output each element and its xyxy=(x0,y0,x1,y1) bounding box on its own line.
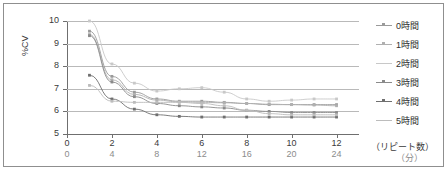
series-marker xyxy=(223,91,226,94)
x-tick-label-repeats: 4 xyxy=(144,138,170,148)
y-tick-label: 9 xyxy=(37,39,59,48)
legend-marker-icon xyxy=(376,97,392,107)
legend-label: 0時間 xyxy=(396,19,419,32)
series-marker xyxy=(268,116,271,119)
series-marker xyxy=(88,84,91,87)
legend-dot-icon xyxy=(382,80,385,83)
series-line xyxy=(89,36,336,113)
legend-label: 2時間 xyxy=(396,57,419,70)
x-axis-line xyxy=(67,134,359,135)
series-marker xyxy=(200,102,203,105)
series-marker xyxy=(133,101,136,104)
series-marker xyxy=(178,87,181,90)
series-marker xyxy=(290,99,293,102)
x-tick-label-repeats: 8 xyxy=(234,138,260,148)
series-marker xyxy=(268,103,271,106)
legend-label: 5時間 xyxy=(396,114,419,127)
x-tick-label-minutes: 8 xyxy=(144,149,170,159)
series-marker xyxy=(335,113,338,116)
y-axis-label: %CV xyxy=(20,35,30,56)
legend-marker-icon xyxy=(376,116,392,126)
series-marker xyxy=(335,104,338,107)
series-marker xyxy=(268,100,271,103)
series-line xyxy=(89,35,336,106)
series-line xyxy=(89,75,336,117)
series-marker xyxy=(111,75,114,78)
x-tick-label-repeats: 12 xyxy=(324,138,350,148)
series-marker xyxy=(155,113,158,116)
series-marker xyxy=(133,95,136,98)
legend-item[interactable]: 1時間 xyxy=(376,35,446,54)
x-tick-label-minutes: 4 xyxy=(99,149,125,159)
legend-label: 3時間 xyxy=(396,76,419,89)
series-marker xyxy=(335,98,338,101)
series-marker xyxy=(313,104,316,107)
legend-item[interactable]: 3時間 xyxy=(376,73,446,92)
series-marker xyxy=(223,116,226,119)
legend-dot-icon xyxy=(382,23,385,26)
legend-label: 4時間 xyxy=(396,95,419,108)
series-marker xyxy=(290,103,293,106)
chart-screenshot: %CV 1098765 00244861281610201224 （リピート数）… xyxy=(0,0,448,171)
series-marker xyxy=(88,20,91,23)
series-marker xyxy=(111,63,114,66)
x-tick-label-repeats: 0 xyxy=(54,138,80,148)
series-marker xyxy=(200,86,203,89)
legend-item[interactable]: 5時間 xyxy=(376,111,446,130)
series-marker xyxy=(88,74,91,77)
series-marker xyxy=(155,90,158,93)
series-marker xyxy=(111,100,114,103)
series-marker xyxy=(313,98,316,101)
series-marker xyxy=(178,115,181,118)
y-tick-label: 10 xyxy=(37,16,59,25)
series-marker xyxy=(200,105,203,108)
series-marker xyxy=(88,34,91,37)
y-tick-label: 8 xyxy=(37,61,59,70)
series-marker xyxy=(223,104,226,107)
series-marker xyxy=(133,82,136,85)
legend-item[interactable]: 4時間 xyxy=(376,92,446,111)
series-marker xyxy=(268,112,271,115)
series-marker xyxy=(245,98,248,101)
y-tick-label: 5 xyxy=(37,129,59,138)
series-marker xyxy=(245,116,248,119)
x-tick-label-repeats: 2 xyxy=(99,138,125,148)
series-marker xyxy=(178,104,181,107)
legend-line-icon xyxy=(376,63,392,64)
x-tick-label-repeats: 6 xyxy=(189,138,215,148)
x-tick-label-minutes: 16 xyxy=(234,149,260,159)
series-marker xyxy=(155,101,158,104)
series-marker xyxy=(88,30,91,33)
y-tick-label: 7 xyxy=(37,84,59,93)
legend-label: 1時間 xyxy=(396,38,419,51)
legend-line-icon xyxy=(376,120,392,121)
series-lines xyxy=(67,21,359,134)
plot-area: 1098765 00244861281610201224 xyxy=(67,21,359,134)
legend-dot-icon xyxy=(382,99,385,102)
legend-marker-icon xyxy=(376,78,392,88)
x-tick-label-minutes: 24 xyxy=(324,149,350,159)
chart-frame: %CV 1098765 00244861281610201224 （リピート数）… xyxy=(3,3,444,167)
series-marker xyxy=(313,113,316,116)
legend: 0時間1時間2時間3時間4時間5時間 xyxy=(376,16,446,130)
legend-dot-icon xyxy=(382,42,385,45)
y-tick-label: 6 xyxy=(37,106,59,115)
x-tick-label-minutes: 0 xyxy=(54,149,80,159)
x-tick-label-minutes: 12 xyxy=(189,149,215,159)
series-marker xyxy=(178,101,181,104)
series-marker xyxy=(245,102,248,105)
series-marker xyxy=(200,116,203,119)
legend-item[interactable]: 0時間 xyxy=(376,16,446,35)
x-tick-label-repeats: 10 xyxy=(279,138,305,148)
x-tick-label-minutes: 20 xyxy=(279,149,305,159)
legend-marker-icon xyxy=(376,59,392,69)
series-marker xyxy=(290,113,293,116)
series-marker xyxy=(133,108,136,111)
legend-marker-icon xyxy=(376,21,392,31)
series-marker xyxy=(245,109,248,112)
legend-marker-icon xyxy=(376,40,392,50)
series-marker xyxy=(223,101,226,104)
series-marker xyxy=(111,81,114,84)
x-axis-unit-minutes: （分） xyxy=(396,151,423,164)
legend-item[interactable]: 2時間 xyxy=(376,54,446,73)
